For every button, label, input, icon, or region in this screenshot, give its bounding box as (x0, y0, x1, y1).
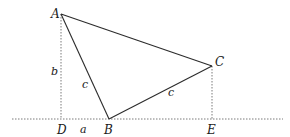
segment-label-b: b (51, 65, 58, 78)
point-label-B: B (103, 123, 113, 137)
segment-label-a: a (80, 123, 87, 136)
segment-BC (109, 66, 212, 119)
segment-label-c-AB: c (82, 78, 88, 91)
point-label-D: D (56, 123, 67, 137)
point-label-E: E (206, 123, 216, 137)
segment-AB (61, 14, 109, 119)
point-label-A: A (50, 7, 60, 21)
geometry-figure: A C B D E b c c a (0, 0, 290, 137)
point-label-C: C (215, 55, 224, 69)
diagram-canvas: A C B D E b c c a (0, 0, 290, 137)
segment-AC (61, 14, 212, 66)
segment-label-c-BC: c (168, 86, 174, 99)
